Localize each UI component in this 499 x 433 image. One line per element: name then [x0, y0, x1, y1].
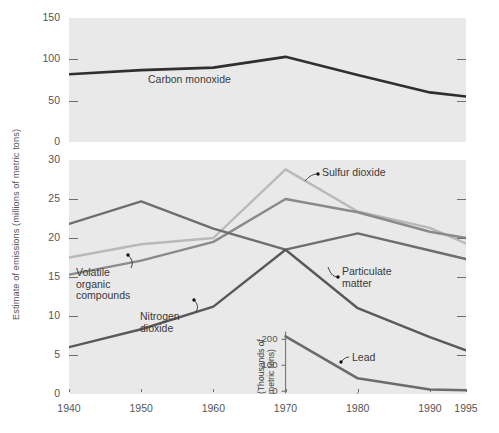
- bottom-y-tick-label: 0: [26, 387, 60, 399]
- label-lead: Lead: [352, 352, 375, 364]
- x-tickmark: [430, 389, 431, 392]
- top-y-tick-label: 150: [26, 11, 60, 23]
- top-plot-area: [69, 18, 466, 142]
- x-tick-label: 1980: [334, 402, 382, 414]
- label-nitrogen-dioxide-line2: dioxide: [140, 323, 180, 335]
- label-voc-line3: compounds: [76, 290, 130, 302]
- label-nitrogen-dioxide-line1: Nitrogen: [140, 311, 180, 323]
- label-particulate-matter: Particulatematter: [342, 266, 392, 289]
- figure-root: 0501001500510152025301940195019601970198…: [0, 0, 499, 433]
- bottom-y-tickmark-right: [457, 277, 466, 278]
- top-y-tickmark: [69, 101, 78, 102]
- x-tick-label: 1970: [262, 402, 310, 414]
- bottom-y-tickmark-right: [457, 316, 466, 317]
- bottom-y-tickmark: [69, 238, 78, 239]
- top-y-tickmark: [69, 59, 78, 60]
- bottom-y-tick-label: 20: [26, 231, 60, 243]
- x-tickmark: [466, 389, 467, 392]
- x-tick-label: 1995: [442, 402, 490, 414]
- label-volatile-organic-compounds: Volatileorganiccompounds: [76, 267, 130, 302]
- bottom-y-tickmark: [69, 355, 78, 356]
- label-sulfur-dioxide: Sulfur dioxide: [322, 167, 386, 179]
- top-y-tick-label: 0: [26, 135, 60, 147]
- x-tickmark: [286, 389, 287, 392]
- bottom-y-tickmark: [69, 316, 78, 317]
- label-nitrogen-dioxide: Nitrogendioxide: [140, 311, 180, 334]
- x-tickmark: [213, 389, 214, 392]
- series-line-lead: [286, 336, 466, 390]
- y-axis-title: Estimate of emissions (millions of metri…: [11, 129, 21, 320]
- inset-y-tick-label: 100: [246, 359, 278, 370]
- bottom-y-tickmark: [69, 199, 78, 200]
- top-y-tick-label: 50: [26, 94, 60, 106]
- label-particulate-matter-line2: matter: [342, 278, 392, 290]
- bottom-y-tick-label: 15: [26, 270, 60, 282]
- bottom-y-tickmark-right: [457, 238, 466, 239]
- bottom-y-tick-label: 30: [26, 153, 60, 165]
- x-tick-label: 1950: [117, 402, 165, 414]
- x-tick-label: 1940: [45, 402, 93, 414]
- x-tickmark: [141, 389, 142, 392]
- bottom-y-tick-label: 5: [26, 348, 60, 360]
- bottom-y-tick-label: 25: [26, 192, 60, 204]
- bottom-y-tickmark-right: [457, 355, 466, 356]
- inset-y-tick-label: 200: [246, 333, 278, 344]
- top-y-tickmark-right: [457, 59, 466, 60]
- series-line-carbon-monoxide: [69, 57, 466, 97]
- label-voc-line1: Volatile: [76, 267, 130, 279]
- top-y-tickmark-right: [457, 101, 466, 102]
- inset-y-tick-label: 0: [246, 385, 278, 396]
- x-tickmark: [69, 389, 70, 392]
- label-particulate-matter-line1: Particulate: [342, 266, 392, 278]
- bottom-y-tickmark-right: [457, 199, 466, 200]
- bottom-y-tick-label: 10: [26, 309, 60, 321]
- label-carbon-monoxide: Carbon monoxide: [148, 74, 231, 86]
- x-tick-label: 1960: [189, 402, 237, 414]
- top-y-tick-label: 100: [26, 52, 60, 64]
- x-tickmark: [358, 389, 359, 392]
